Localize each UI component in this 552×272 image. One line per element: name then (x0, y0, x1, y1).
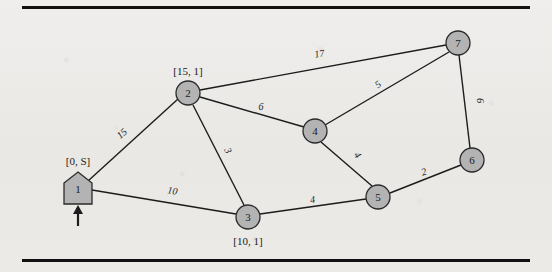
node-3-state-label: [10, 1] (233, 235, 262, 247)
figure-page: 15 10 3 6 17 4 4 5 2 6 1 [0, S] (0, 0, 552, 272)
graph-diagram: 15 10 3 6 17 4 4 5 2 6 1 [0, S] (0, 0, 552, 272)
node-2-state-label: [15, 1] (173, 65, 202, 77)
edge-weight-4-5: 4 (352, 149, 364, 160)
edge-weight-3-5: 4 (309, 194, 315, 206)
edge-weight-6-7: 6 (475, 97, 487, 103)
node-6-label: 6 (469, 154, 475, 166)
node-5[interactable]: 5 (366, 185, 390, 209)
node-1-label: 1 (75, 183, 81, 195)
node-5-label: 5 (375, 191, 381, 203)
edge-weight-5-6: 2 (420, 166, 428, 178)
node-4-label: 4 (312, 125, 318, 137)
node-4[interactable]: 4 (303, 119, 327, 143)
edge-weight-2-7: 17 (314, 47, 327, 60)
edge-weight-1-3: 10 (167, 184, 179, 196)
node-6[interactable]: 6 (460, 148, 484, 172)
edge-2-4 (200, 97, 304, 127)
node-7[interactable]: 7 (446, 31, 470, 55)
edge-2-3 (193, 105, 244, 205)
edge-weight-4-7: 5 (373, 78, 384, 90)
node-1-state-label: [0, S] (66, 155, 90, 167)
node-layer: 1 [0, S] 2 [15, 1] 3 [10, 1] 4 (64, 31, 484, 247)
edge-weight-2-3: 3 (222, 145, 235, 155)
node-2-label: 2 (185, 87, 191, 99)
edge-1-2 (88, 99, 178, 181)
edge-1-3 (92, 190, 236, 214)
node-7-label: 7 (455, 37, 461, 49)
node-2[interactable]: 2 (176, 81, 200, 105)
edge-4-5 (321, 142, 372, 186)
edge-layer (88, 45, 470, 214)
edge-6-7 (459, 55, 470, 148)
edge-weight-1-2: 15 (114, 126, 129, 141)
node-1[interactable]: 1 (64, 172, 92, 204)
node-3-label: 3 (245, 211, 251, 223)
node-3[interactable]: 3 (236, 205, 260, 229)
edge-4-7 (325, 52, 449, 125)
source-arrow-icon (73, 205, 83, 226)
edge-weight-2-4: 6 (259, 101, 264, 112)
